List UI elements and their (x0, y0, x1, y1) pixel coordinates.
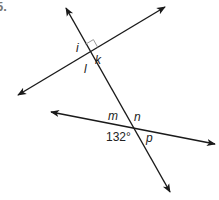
label-i: i (76, 41, 79, 55)
label-l: l (84, 62, 87, 76)
label-k: k (95, 53, 102, 67)
upper-line (18, 7, 165, 95)
geometry-diagram: i k l m n 132° p (0, 0, 219, 200)
label-p: p (145, 131, 153, 145)
label-m: m (108, 109, 118, 123)
label-n: n (134, 110, 141, 124)
lower-line (51, 112, 215, 144)
label-angle-132: 132° (106, 130, 131, 144)
